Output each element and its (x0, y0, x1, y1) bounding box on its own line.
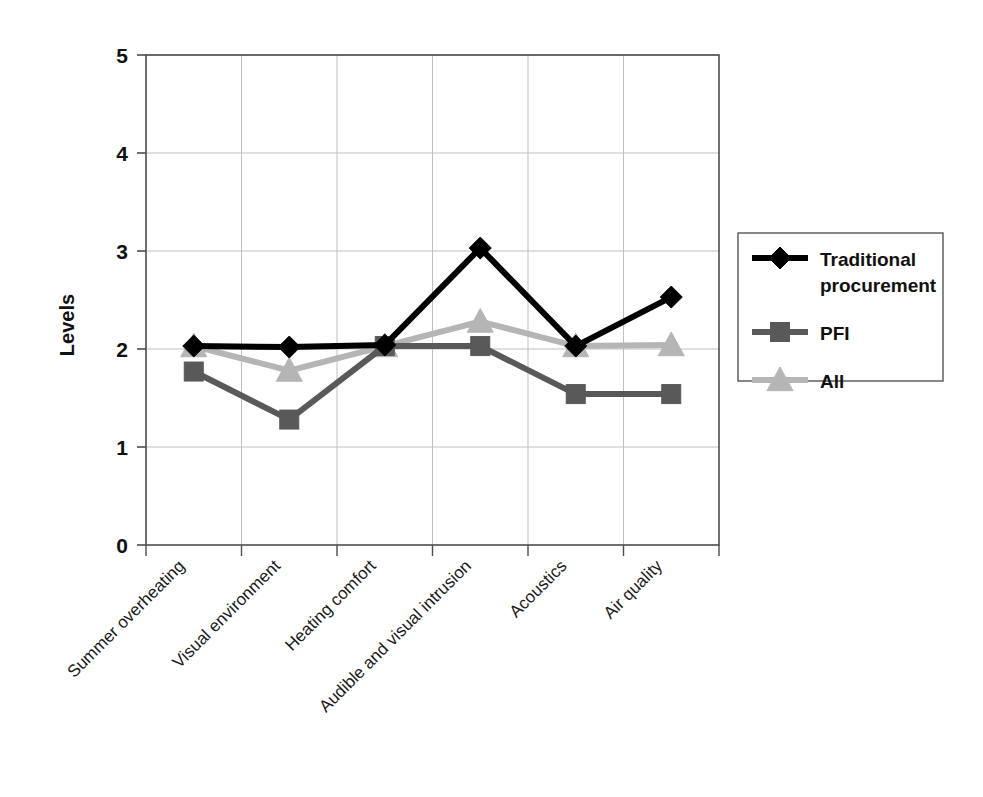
y-tick-label: 3 (116, 240, 128, 263)
data-point-marker (662, 385, 681, 404)
data-point-marker (280, 410, 299, 429)
legend-marker-square-icon (771, 323, 790, 342)
legend-label: PFI (820, 323, 850, 344)
y-tick-label: 5 (116, 44, 128, 67)
legend-label-line: All (820, 371, 844, 392)
data-point-marker (184, 362, 203, 381)
y-axis-title: Levels (56, 294, 78, 356)
y-tick-label: 4 (116, 142, 128, 165)
y-tick-label: 2 (116, 338, 128, 361)
data-point-marker (566, 385, 585, 404)
line-chart: 012345 Levels Summer overheatingVisual e… (0, 0, 983, 797)
y-tick-label: 0 (116, 534, 128, 557)
legend: TraditionalprocurementPFIAll (738, 233, 943, 392)
data-point-marker (471, 337, 490, 356)
chart-container: 012345 Levels Summer overheatingVisual e… (0, 0, 983, 797)
chart-background (0, 0, 983, 797)
legend-label: All (820, 371, 844, 392)
legend-label-line: PFI (820, 323, 850, 344)
legend-label-line: procurement (820, 275, 937, 296)
legend-label-line: Traditional (820, 249, 916, 270)
y-tick-label: 1 (116, 436, 128, 459)
